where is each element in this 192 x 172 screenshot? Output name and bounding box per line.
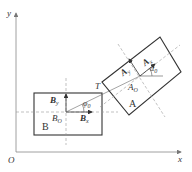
body-a-name-label: A xyxy=(129,99,136,109)
origin-label: O xyxy=(8,156,15,165)
phi-sub: 0 xyxy=(87,103,90,109)
body-b-y-label: By xyxy=(50,96,59,106)
body-b-center-sub: O xyxy=(58,118,62,124)
x-axis-label: x xyxy=(178,155,182,164)
body-b-name-label: B xyxy=(42,122,49,132)
alpha-angle-label: α0 xyxy=(150,65,157,74)
alpha-sub: 0 xyxy=(154,68,157,74)
body-b xyxy=(16,76,140,145)
body-b-y-sub: y xyxy=(56,100,59,106)
y-axis-label: y xyxy=(7,9,11,18)
body-a xyxy=(100,37,181,117)
body-b-x-label: Bx xyxy=(80,114,89,124)
body-b-x-sub: x xyxy=(86,118,89,124)
diagram-canvas: y x O B BO By Bx φ0 T A AO Ay Ax α0 xyxy=(0,0,192,172)
contact-point-label: T xyxy=(95,82,100,91)
phi-angle-label: φ0 xyxy=(83,100,90,109)
body-a-short-axis xyxy=(118,44,165,117)
body-a-center-sub: O xyxy=(134,87,138,93)
body-b-center-label: BO xyxy=(52,114,62,124)
body-a-center-label: AO xyxy=(128,83,138,93)
